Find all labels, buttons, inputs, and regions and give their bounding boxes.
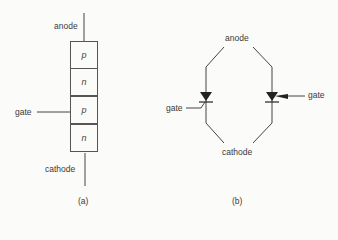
layer-p1: p — [70, 41, 98, 69]
caption-b: (b) — [232, 196, 242, 206]
gate-label-b-right: gate — [308, 90, 325, 100]
cathode-label-b: cathode — [222, 147, 252, 157]
anode-label-a: anode — [54, 21, 78, 31]
layer-n2: n — [70, 124, 98, 152]
layer-p2: p — [70, 96, 98, 124]
gate-label-b-left: gate — [166, 103, 183, 113]
anode-label-b: anode — [225, 33, 249, 43]
caption-a: (a) — [78, 196, 88, 206]
gate-label-a: gate — [15, 107, 32, 117]
layer-n1: n — [70, 68, 98, 96]
cathode-label-a: cathode — [45, 164, 75, 174]
